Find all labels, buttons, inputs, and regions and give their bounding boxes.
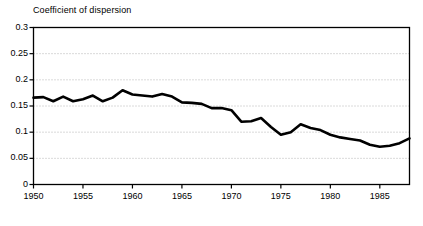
y-tick-label: 0.25 [2, 48, 28, 58]
y-tick-label: 0.1 [2, 126, 28, 136]
y-tick-label: 0.3 [2, 22, 28, 32]
y-tick-label: 0.05 [2, 152, 28, 162]
x-tick-label: 1960 [112, 191, 152, 201]
y-tick-label: 0 [2, 179, 28, 189]
y-tick-label: 0.15 [2, 100, 28, 110]
x-tick-label: 1985 [360, 191, 400, 201]
x-tick-label: 1980 [310, 191, 350, 201]
x-tick-label: 1950 [14, 191, 54, 201]
gridlines [34, 54, 410, 159]
x-tick-label: 1965 [162, 191, 202, 201]
plot-frame [34, 28, 410, 185]
x-tick-label: 1975 [261, 191, 301, 201]
y-tick-label: 0.2 [2, 74, 28, 84]
chart-figure: Coefficient of dispersion 00.050.10.150.… [0, 0, 423, 226]
data-line-coefficient-of-dispersion [34, 90, 410, 147]
x-tick-label: 1955 [63, 191, 103, 201]
x-tick-label: 1970 [211, 191, 251, 201]
